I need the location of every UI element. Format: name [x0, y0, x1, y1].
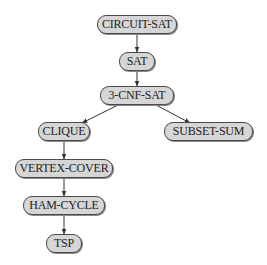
node-3-cnf-sat: 3-CNF-SAT	[100, 86, 174, 105]
reduction-diagram: CIRCUIT-SAT SAT 3-CNF-SAT CLIQUE SUBSET-…	[0, 0, 267, 265]
node-subset-sum: SUBSET-SUM	[164, 122, 253, 141]
node-vertex-cover: VERTEX-COVER	[15, 159, 113, 178]
node-sat: SAT	[119, 52, 155, 71]
edge-cnf3-to-subset_sum	[156, 105, 190, 123]
node-tsp: TSP	[46, 234, 82, 253]
edge-cnf3-to-clique	[82, 105, 118, 123]
node-clique: CLIQUE	[38, 122, 90, 141]
node-ham-cycle: HAM-CYCLE	[23, 196, 105, 215]
node-circuit-sat: CIRCUIT-SAT	[97, 15, 177, 34]
